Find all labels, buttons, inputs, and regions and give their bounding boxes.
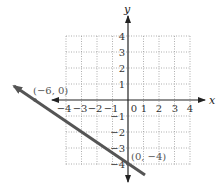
x-tick: 1: [141, 103, 147, 114]
x-tick: 2: [156, 103, 162, 114]
x-tick: −4: [57, 103, 72, 114]
coordinate-plane: x y −4 −3 −2 −1 0 1 2 3 4 4 3 2 1 −1 −2 …: [0, 0, 220, 193]
x-tick: −3: [73, 103, 88, 114]
point-0-neg4: [126, 162, 130, 166]
x-axis-label: x: [209, 94, 216, 107]
origin-label: 0: [131, 103, 137, 114]
point-neg6-0: [33, 98, 37, 102]
y-tick: 4: [119, 31, 125, 42]
x-tick: 4: [187, 103, 193, 114]
point-label-0-neg4: (0, −4): [131, 151, 166, 162]
y-axis-label: y: [123, 3, 131, 16]
point-label-neg6-0: (−6, 0): [33, 85, 68, 96]
x-tick: 3: [172, 103, 178, 114]
y-tick: 2: [119, 63, 125, 74]
y-tick: 1: [119, 79, 125, 90]
y-tick: −1: [110, 111, 125, 122]
y-tick: 3: [119, 47, 125, 58]
x-tick: −2: [88, 103, 103, 114]
y-tick: −2: [110, 127, 125, 138]
